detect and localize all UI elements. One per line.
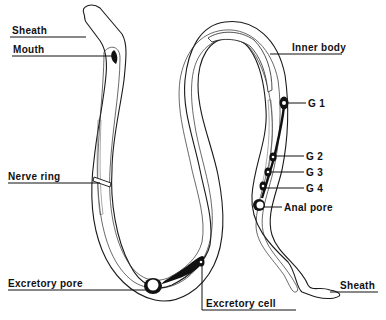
- label-g3: G 3: [306, 167, 323, 178]
- label-g1: G 1: [308, 98, 325, 109]
- nerve-ring: [93, 177, 111, 187]
- diagram-canvas: Sheath Mouth Nerve ring Excretory pore E…: [0, 0, 386, 320]
- label-nerve-ring: Nerve ring: [8, 171, 60, 182]
- nematode-diagram: Sheath Mouth Nerve ring Excretory pore E…: [0, 0, 386, 320]
- label-g2: G 2: [306, 151, 323, 162]
- label-mouth: Mouth: [13, 44, 45, 55]
- excretory-cell: [162, 256, 204, 284]
- label-excretory-pore: Excretory pore: [8, 278, 83, 289]
- label-sheath-tail: Sheath: [340, 280, 375, 291]
- mouth: [111, 50, 117, 64]
- label-inner-body: Inner body: [292, 42, 346, 53]
- label-sheath-head: Sheath: [12, 25, 47, 36]
- label-anal-pore: Anal pore: [284, 202, 333, 213]
- label-g4: G 4: [306, 183, 323, 194]
- label-excretory-cell: Excretory cell: [206, 298, 276, 309]
